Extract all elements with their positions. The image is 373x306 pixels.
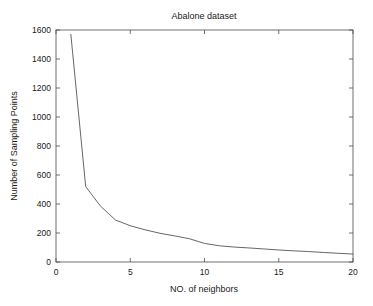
x-tick-label: 15: [274, 267, 284, 277]
y-tick-label: 1200: [32, 83, 51, 93]
y-tick-label: 400: [37, 199, 51, 209]
y-tick-label: 1600: [32, 25, 51, 35]
chart-figure: Abalone dataset 020040060080010001200140…: [0, 0, 373, 306]
y-tick-label: 600: [37, 170, 51, 180]
x-axis-label: NO. of neighbors: [170, 284, 239, 294]
y-tick-label: 200: [37, 228, 51, 238]
y-tick-label: 1000: [32, 112, 51, 122]
y-axis-label: Number of Sampling Points: [9, 91, 19, 201]
y-tick-label: 1400: [32, 54, 51, 64]
x-tick-label: 10: [200, 267, 210, 277]
y-tick-label: 800: [37, 141, 51, 151]
y-tick-label: 0: [46, 257, 51, 267]
chart-title: Abalone dataset: [171, 11, 237, 21]
line-chart: Abalone dataset 020040060080010001200140…: [0, 0, 373, 306]
x-tick-label: 5: [128, 267, 133, 277]
x-tick-label: 0: [54, 267, 59, 277]
x-tick-label: 20: [348, 267, 358, 277]
